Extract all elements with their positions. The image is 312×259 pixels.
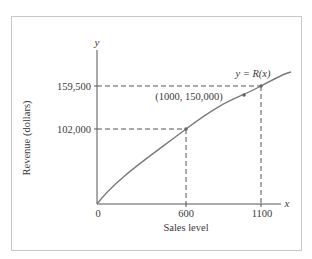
y-axis-title: Revenue (dollars) [21,100,33,175]
x-axis-title: Sales level [163,222,208,233]
guide-lines [97,86,261,204]
point-1000 [242,93,246,97]
curve-label: y = R(x) [234,68,271,80]
y-tick-label-102000: 102,000 [57,124,91,135]
point-label: (1000, 150,000) [155,91,223,103]
x-tick-label-1100: 1100 [252,208,273,219]
origin-label: 0 [95,208,100,219]
revenue-chart: y x 159,500 102,000 0 600 1100 y = R(x) … [0,0,312,259]
x-tick-label-600: 600 [178,208,194,219]
point-1100 [259,84,263,88]
y-axis-symbol: y [94,36,100,48]
point-600 [184,127,188,131]
x-axis-symbol: x [284,197,290,209]
y-tick-label-159500: 159,500 [57,81,91,92]
